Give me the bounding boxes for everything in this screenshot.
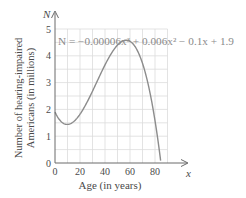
y-tick-label: 5 [46, 24, 51, 35]
x-tick-labels: 020406080 [53, 166, 161, 177]
x-tick-label: 60 [125, 166, 135, 177]
y-axis-title-line-1: Number of hearing-impaired [13, 37, 24, 158]
x-tick-label: 0 [53, 166, 58, 177]
y-tick-labels: 012345 [46, 24, 51, 169]
polynomial-curve [55, 40, 161, 160]
y-tick-label: 4 [46, 50, 51, 61]
chart-figure: 012345 020406080 N x N = −0.00006x³ + 0.… [0, 0, 246, 198]
y-tick-label: 1 [46, 131, 51, 142]
y-axis-title-line-2: Americans (in millions) [25, 47, 37, 148]
y-tick-label: 2 [46, 104, 51, 115]
x-tick-label: 80 [150, 166, 160, 177]
x-axis-variable: x [185, 167, 191, 179]
equation-label: N = −0.00006x³ + 0.006x² − 0.1x + 1.9 [58, 36, 234, 47]
x-tick-label: 20 [75, 166, 85, 177]
x-axis-title: Age (in years) [79, 179, 142, 192]
y-tick-label: 0 [46, 158, 51, 169]
y-axis-variable: N [42, 8, 51, 20]
x-tick-label: 40 [100, 166, 110, 177]
y-axis-title: Number of hearing-impaired Americans (in… [13, 37, 37, 158]
y-tick-label: 3 [46, 77, 51, 88]
